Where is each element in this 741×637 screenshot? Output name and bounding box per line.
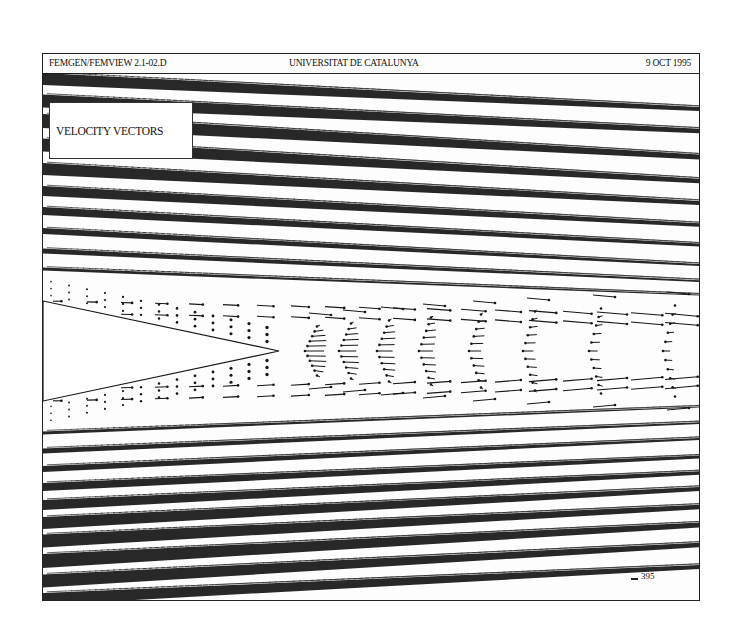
- plot-header: FEMGEN/FEMVIEW 2.1-02.D UNIVERSITAT DE C…: [43, 54, 699, 74]
- plot-title: VELOCITY VECTORS: [56, 125, 163, 137]
- scale-value: 395: [641, 571, 655, 581]
- scale-bar: [631, 578, 638, 580]
- date-label: 9 OCT 1995: [646, 58, 691, 68]
- plot-frame: FEMGEN/FEMVIEW 2.1-02.D UNIVERSITAT DE C…: [42, 53, 700, 601]
- plot-title-box: VELOCITY VECTORS: [49, 102, 193, 159]
- velocity-vector-plot: VELOCITY VECTORS 395: [43, 73, 699, 600]
- software-version-label: FEMGEN/FEMVIEW 2.1-02.D: [49, 58, 166, 68]
- institution-label: UNIVERSITAT DE CATALUNYA: [289, 58, 419, 68]
